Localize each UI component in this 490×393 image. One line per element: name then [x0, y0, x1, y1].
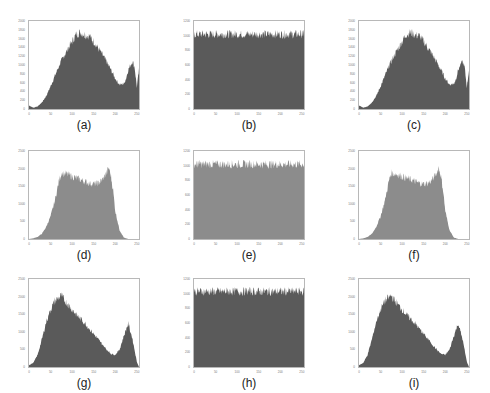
histogram-bars	[359, 294, 469, 367]
x-tick-label: 200	[274, 242, 286, 246]
y-tick-label: 1400	[0, 46, 25, 49]
y-tick-label: 1400	[330, 46, 355, 49]
x-tick-label: 150	[418, 370, 430, 374]
x-tick-label: 50	[375, 242, 387, 246]
x-tick-label: 250	[131, 370, 143, 374]
y-tick-label: 600	[0, 82, 25, 85]
y-tick-label: 800	[165, 307, 190, 310]
x-tick-label: 0	[23, 370, 35, 374]
histogram-panel-i: 05001000150020002500050100150200250(i)	[330, 258, 490, 389]
histogram-panel-e: 020040060080010001200050100150200250(e)	[165, 130, 328, 261]
plot-area	[358, 20, 470, 110]
y-tick-label: 600	[165, 64, 190, 67]
y-tick-label: 1200	[165, 150, 190, 153]
histogram-bars	[359, 29, 469, 109]
y-tick-label: 2000	[330, 20, 355, 23]
y-tick-label: 1600	[0, 38, 25, 41]
y-tick-label: 2500	[0, 150, 25, 153]
y-tick-label: 1000	[0, 64, 25, 67]
x-tick-label: 100	[396, 112, 408, 116]
y-tick-label: 200	[165, 93, 190, 96]
x-tick-label: 50	[45, 242, 57, 246]
y-tick-label: 1500	[330, 313, 355, 316]
y-tick-label: 0	[330, 108, 355, 111]
x-tick-label: 0	[23, 242, 35, 246]
histogram-panel-g: 05001000150020002500050100150200250(g)	[0, 258, 163, 389]
y-tick-label: 600	[330, 82, 355, 85]
y-tick-label: 1500	[0, 313, 25, 316]
x-tick-label: 250	[461, 370, 473, 374]
y-tick-label: 2000	[330, 296, 355, 299]
x-tick-label: 250	[296, 242, 308, 246]
y-tick-label: 0	[165, 366, 190, 369]
x-tick-label: 100	[66, 370, 78, 374]
x-tick-label: 0	[353, 112, 365, 116]
y-tick-label: 2000	[0, 296, 25, 299]
y-tick-label: 1000	[165, 165, 190, 168]
x-tick-label: 50	[210, 112, 222, 116]
histogram-panel-c: 0200400600800100012001400160018002000050…	[330, 0, 490, 131]
y-tick-label: 1500	[330, 185, 355, 188]
x-tick-label: 250	[461, 112, 473, 116]
y-tick-label: 0	[0, 238, 25, 241]
x-tick-label: 200	[439, 242, 451, 246]
y-tick-label: 500	[0, 220, 25, 223]
x-tick-label: 0	[188, 112, 200, 116]
y-tick-label: 600	[165, 322, 190, 325]
y-tick-label: 800	[330, 73, 355, 76]
y-tick-label: 400	[0, 90, 25, 93]
y-tick-label: 2000	[0, 20, 25, 23]
histogram-bars	[29, 30, 139, 109]
y-tick-label: 1200	[165, 278, 190, 281]
y-tick-label: 800	[165, 49, 190, 52]
x-tick-label: 200	[109, 242, 121, 246]
x-tick-label: 0	[23, 112, 35, 116]
x-tick-label: 50	[45, 112, 57, 116]
x-tick-label: 100	[396, 242, 408, 246]
x-tick-label: 100	[231, 242, 243, 246]
y-tick-label: 500	[330, 348, 355, 351]
y-tick-label: 2000	[330, 168, 355, 171]
plot-area	[28, 20, 140, 110]
y-tick-label: 800	[0, 73, 25, 76]
panel-caption: (i)	[358, 376, 470, 390]
plot-area	[28, 278, 140, 368]
y-tick-label: 200	[0, 99, 25, 102]
y-tick-label: 1000	[0, 203, 25, 206]
plot-area	[193, 150, 305, 240]
x-tick-label: 100	[66, 242, 78, 246]
y-tick-label: 2500	[330, 278, 355, 281]
x-tick-label: 150	[253, 242, 265, 246]
y-tick-label: 1000	[330, 203, 355, 206]
histogram-panel-f: 05001000150020002500050100150200250(f)	[330, 130, 490, 261]
plot-area	[193, 278, 305, 368]
plot-area	[358, 278, 470, 368]
y-tick-label: 400	[330, 90, 355, 93]
y-tick-label: 800	[165, 179, 190, 182]
histogram-bars	[29, 292, 139, 367]
plot-area	[193, 20, 305, 110]
y-tick-label: 200	[165, 223, 190, 226]
y-tick-label: 0	[330, 238, 355, 241]
y-tick-label: 0	[0, 366, 25, 369]
y-tick-label: 1000	[0, 331, 25, 334]
y-tick-label: 1200	[0, 55, 25, 58]
histogram-bars	[194, 160, 304, 239]
y-tick-label: 0	[0, 108, 25, 111]
y-tick-label: 0	[165, 108, 190, 111]
y-tick-label: 1800	[0, 29, 25, 32]
y-tick-label: 400	[165, 337, 190, 340]
x-tick-label: 150	[88, 370, 100, 374]
y-tick-label: 2500	[0, 278, 25, 281]
y-tick-label: 2500	[330, 150, 355, 153]
panel-caption: (g)	[28, 376, 140, 390]
x-tick-label: 0	[353, 242, 365, 246]
histogram-bars	[194, 287, 304, 367]
x-tick-label: 250	[461, 242, 473, 246]
x-tick-label: 250	[296, 370, 308, 374]
x-tick-label: 50	[375, 370, 387, 374]
x-tick-label: 100	[231, 112, 243, 116]
histogram-bars	[194, 30, 304, 109]
panel-caption: (h)	[193, 376, 305, 390]
x-tick-label: 0	[188, 370, 200, 374]
